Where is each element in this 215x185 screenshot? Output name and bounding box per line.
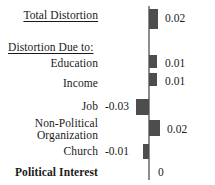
value-political-interest: 0: [158, 166, 164, 179]
row-label-distortion-due-to: Distortion Due to:: [8, 41, 94, 54]
bar-education: [149, 55, 157, 68]
row-label-income: Income: [63, 77, 98, 90]
bar-non-political-organization: [149, 120, 160, 136]
value-non-political-organization: 0.02: [167, 123, 187, 136]
bar-church: [143, 144, 149, 159]
value-income: 0.01: [165, 75, 185, 88]
row-label-total-distortion: Total Distortion: [23, 9, 98, 22]
row-label-education: Education: [50, 57, 98, 70]
row-label-political-interest: Political Interest: [15, 166, 98, 179]
row-label-non-political-organization-line2: Organization: [37, 129, 98, 142]
row-label-job: Job: [82, 100, 98, 113]
value-church: -0.01: [105, 145, 129, 158]
bar-job: [136, 99, 149, 115]
bar-total-distortion: [149, 9, 158, 29]
value-job: -0.03: [105, 100, 129, 113]
value-total-distortion: 0.02: [165, 12, 185, 25]
row-label-non-political-organization-line1: Non-Political: [35, 117, 98, 130]
row-label-church: Church: [64, 145, 98, 158]
distortion-bar-chart: Total Distortion 0.02 Distortion Due to:…: [0, 0, 215, 185]
value-education: 0.01: [165, 57, 185, 70]
bar-income: [149, 73, 157, 86]
